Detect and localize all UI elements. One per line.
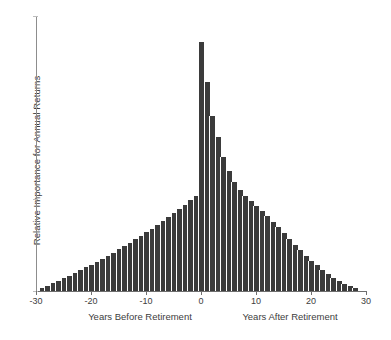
x-axis-title-left: Years Before Retirement (55, 311, 225, 322)
x-axis-tick (311, 291, 312, 295)
x-axis-title-right: Years After Retirement (205, 311, 375, 322)
x-axis-tick (91, 291, 92, 295)
x-axis-tick-label: 10 (239, 296, 273, 306)
chart-figure: Relative Importance for Annual Returns -… (0, 0, 391, 340)
x-axis-tick (36, 291, 37, 295)
x-axis-tick-label: -20 (74, 296, 108, 306)
plot-area (36, 16, 366, 291)
x-axis-tick (256, 291, 257, 295)
x-axis-tick-label: 0 (184, 296, 218, 306)
x-axis-tick-label: 20 (294, 296, 328, 306)
bar-series (36, 16, 366, 291)
x-axis-tick-label: 30 (349, 296, 383, 306)
x-axis-tick (201, 291, 202, 295)
x-axis-tick-label: -10 (129, 296, 163, 306)
x-axis-tick (366, 291, 367, 295)
x-axis-tick (146, 291, 147, 295)
bar (352, 288, 358, 291)
x-axis-tick-label: -30 (19, 296, 53, 306)
